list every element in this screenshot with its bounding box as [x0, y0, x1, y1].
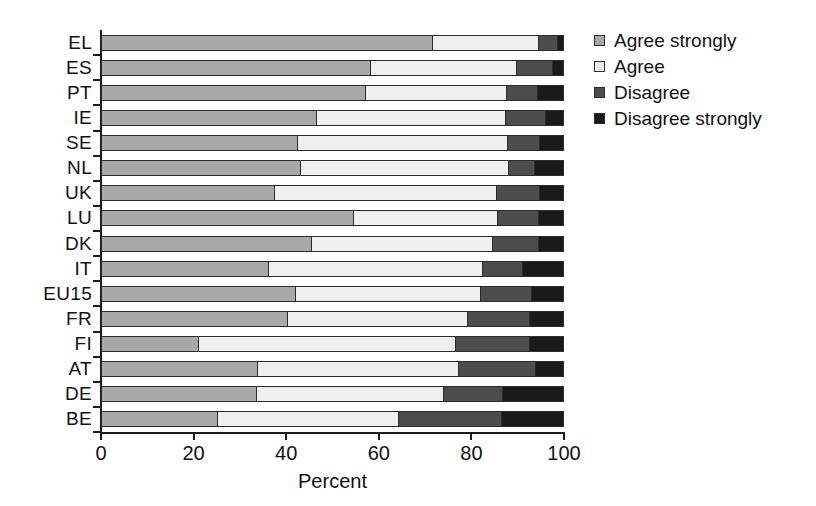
bar-segment [539, 210, 564, 226]
bar-segment [354, 210, 498, 226]
y-axis-tick-label: NL [67, 158, 92, 177]
bar-row [101, 35, 564, 51]
bar-segment [498, 210, 538, 226]
legend-item: Disagree [594, 80, 762, 105]
y-axis-tick-label: BE [66, 409, 92, 428]
bar-row [101, 185, 564, 201]
bar-row [101, 236, 564, 252]
bar-segment [456, 336, 530, 352]
bar-segment [101, 185, 275, 201]
plot-area [101, 30, 564, 432]
bar-segment [317, 110, 506, 126]
bar-segment [508, 135, 540, 151]
bar-segment [275, 185, 497, 201]
bar-segment [257, 386, 444, 402]
x-axis-tick-label: 0 [95, 442, 106, 464]
bar-segment [101, 110, 317, 126]
y-axis-tick-label: LU [67, 208, 92, 227]
bar-segment [101, 311, 288, 327]
bar-segment [101, 261, 269, 277]
x-axis-tick-mark [193, 432, 195, 440]
bar-segment [523, 261, 564, 277]
bar-row [101, 311, 564, 327]
y-axis-tick-label: PT [67, 83, 92, 102]
x-axis-tick-mark [470, 432, 472, 440]
bar-row [101, 160, 564, 176]
y-axis-tick-label: FI [75, 334, 93, 353]
bar-segment [483, 261, 523, 277]
x-axis-tick-label: 100 [547, 442, 580, 464]
bar-segment [366, 85, 507, 101]
bar-segment [481, 286, 532, 302]
bar-row [101, 361, 564, 377]
y-axis-tick-labels: ELESPTIESENLUKLUDKITEU15FRFIATDEBE [0, 30, 92, 432]
bar-segment [101, 85, 366, 101]
bar-segment [546, 110, 564, 126]
bar-segment [371, 60, 517, 76]
bar-segment [532, 286, 564, 302]
y-axis-tick-label: IT [75, 259, 93, 278]
bar-segment [444, 386, 503, 402]
bar-segment [509, 160, 535, 176]
bar-segment [301, 160, 509, 176]
bar-segment [497, 185, 540, 201]
x-axis-title: Percent [101, 470, 564, 492]
x-axis-tick-mark [100, 432, 102, 440]
bar-segment [530, 336, 564, 352]
bar-row [101, 336, 564, 352]
bar-segment [298, 135, 508, 151]
bar-row [101, 261, 564, 277]
bar-segment [538, 85, 564, 101]
bar-segment [101, 386, 257, 402]
bar-segment [258, 361, 459, 377]
legend-swatch-icon [594, 61, 605, 72]
bar-segment [101, 135, 298, 151]
y-axis-tick-label: DK [65, 234, 92, 253]
legend-swatch-icon [594, 87, 605, 98]
bar-segment [502, 411, 564, 427]
y-axis-tick-label: SE [66, 133, 92, 152]
bar-segment [539, 236, 564, 252]
bar-segment [218, 411, 399, 427]
legend-label: Agree strongly [614, 30, 737, 51]
x-axis-tick-label: 20 [182, 442, 204, 464]
y-axis-tick-label: IE [73, 108, 92, 127]
x-axis-tick-mark [378, 432, 380, 440]
bar-row [101, 411, 564, 427]
y-axis-tick-label: ES [66, 58, 92, 77]
bar-row [101, 386, 564, 402]
bar-segment [101, 286, 296, 302]
bar-row [101, 135, 564, 151]
x-axis-tick-label: 40 [275, 442, 297, 464]
x-axis-tick-label: 60 [368, 442, 390, 464]
bar-segment [507, 85, 538, 101]
legend-swatch-icon [594, 35, 605, 46]
legend-label: Disagree strongly [614, 108, 762, 129]
bar-segment [506, 110, 546, 126]
bar-segment [101, 210, 354, 226]
bar-segment [101, 60, 371, 76]
bar-segment [101, 411, 218, 427]
bar-row [101, 85, 564, 101]
y-axis-tick-label: UK [65, 183, 92, 202]
bar-segment [101, 361, 258, 377]
bar-segment [530, 311, 564, 327]
legend-item: Disagree strongly [594, 106, 762, 131]
bar-segment [553, 60, 564, 76]
legend-swatch-icon [594, 113, 605, 124]
bar-segment [312, 236, 493, 252]
bar-row [101, 110, 564, 126]
bar-row [101, 60, 564, 76]
y-axis-tick-label: DE [65, 384, 92, 403]
bar-segment [539, 35, 558, 51]
legend-item: Agree [594, 54, 762, 79]
x-axis-line [101, 432, 565, 434]
bar-segment [517, 60, 553, 76]
bar-segment [101, 336, 199, 352]
bar-segment [535, 160, 564, 176]
bar-segment [288, 311, 468, 327]
bar-segment [433, 35, 539, 51]
bar-segment [459, 361, 536, 377]
chart-legend: Agree stronglyAgreeDisagreeDisagree stro… [594, 28, 762, 132]
y-axis-tick-label: FR [66, 309, 92, 328]
